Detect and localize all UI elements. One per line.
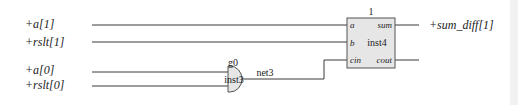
port-a-label: a [350,20,355,30]
gate-name-label: g0 [228,57,238,68]
port-cin-label: cin [350,55,361,65]
port-b-label: b [350,38,355,48]
input-label-a1: +a[1] [25,17,55,31]
wire-net3[interactable] [239,60,347,79]
input-label-rslt1: +rslt[1] [25,35,65,49]
input-label-a0: +a[0] [25,63,55,77]
output-label-sum-diff1: +sum_diff[1] [429,18,494,32]
input-label-rslt0: +rslt[0] [25,78,65,92]
adder-index-label: 1 [369,6,374,17]
and-gate-inst3[interactable]: g0 inst3 net3 [224,57,273,92]
port-cout-label: cout [377,55,393,65]
schematic-canvas: 1 a b cin sum cout inst4 g0 inst3 net3 +… [0,0,518,105]
gate-instance-label: inst3 [224,74,243,85]
net3-label: net3 [256,67,273,78]
adder-inst4[interactable]: 1 a b cin sum cout inst4 [347,6,395,68]
adder-instance-label: inst4 [367,37,386,48]
port-sum-label: sum [377,20,392,30]
